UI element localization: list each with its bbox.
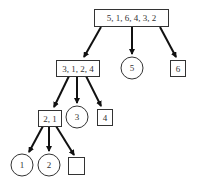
label-21: 2, 1	[43, 114, 57, 124]
label-2: 2	[47, 160, 52, 170]
edge-n3124-n4	[86, 76, 101, 106]
label-5: 5	[130, 63, 135, 73]
label-6: 6	[176, 64, 181, 74]
edge-n21-nempty	[56, 126, 74, 155]
edge-root-n3124	[84, 27, 101, 57]
label-4: 4	[103, 113, 108, 123]
node-empty	[69, 158, 85, 175]
label-3: 3	[75, 112, 80, 122]
tree-diagram: 5, 1, 6, 4, 3, 2 3, 1, 2, 4 5 6 2, 1 3 4…	[0, 0, 197, 186]
edge-root-n6	[160, 27, 176, 57]
label-3124: 3, 1, 2, 4	[62, 64, 94, 74]
edge-n3124-n21	[54, 76, 69, 107]
label-root: 5, 1, 6, 4, 3, 2	[107, 13, 157, 23]
label-1: 1	[20, 160, 25, 170]
edge-n21-n1	[29, 126, 43, 152]
